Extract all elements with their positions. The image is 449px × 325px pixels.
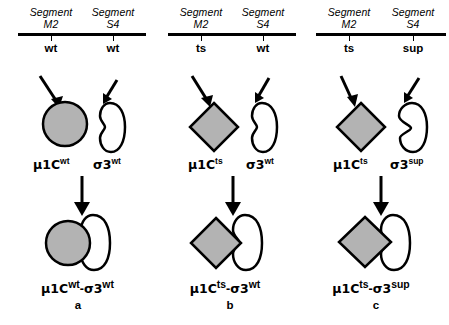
protein-label-sigma3: σ3wt (246, 158, 274, 172)
sigma3-bean-shape (252, 103, 277, 152)
protein-label-sigma3: σ3wt (93, 158, 121, 172)
protein-sup-mu1c: wt (60, 156, 69, 166)
panel-letter-a: a (58, 299, 98, 311)
segment-title-line1: Segment (312, 6, 386, 18)
gene-segment-bar (380, 33, 446, 36)
complex-base-left: μ1C (332, 281, 359, 296)
panel-b: Segment M2 ts Segment S4 wt (150, 0, 300, 325)
segment-title-line1: Segment (226, 6, 300, 18)
protein-label-sigma3: σ3sup (390, 158, 424, 172)
complex-label: μ1Cwt-σ3wt (0, 278, 155, 296)
figure-canvas: Segment M2 wt Segment S4 wt (0, 0, 449, 325)
free-proteins-row (293, 100, 449, 155)
segment-column-s4: Segment S4 wt (76, 6, 150, 54)
segment-allele-label: wt (76, 42, 150, 54)
complex-sup-left: ts (217, 279, 226, 290)
sigma3-bean-shape (100, 103, 125, 152)
complex-sup-right: wt (102, 279, 114, 290)
panel-letter-c: c (356, 299, 396, 311)
mu1c-diamond-shape (190, 103, 238, 151)
gene-segment-bar (230, 33, 296, 36)
complex-label: μ1Cts-σ3wt (150, 278, 300, 296)
sigma3-bean-angular-shape (399, 103, 427, 152)
protein-sup-sigma3: wt (264, 156, 273, 166)
mu1c-circle-shape (43, 102, 87, 146)
segment-title-line2: S4 (376, 18, 449, 30)
protein-label-mu1c: μ1Cts (188, 158, 223, 172)
segment-allele-label: wt (226, 42, 300, 54)
complex-base-left: μ1C (190, 281, 217, 296)
protein-label-mu1c: μ1Cts (333, 158, 368, 172)
gene-segment-bar (168, 33, 234, 36)
protein-sup-sigma3: wt (111, 156, 120, 166)
gene-segment-bar (316, 33, 382, 36)
complex-sup-right: wt (249, 279, 261, 290)
complex-sup-right: sup (391, 279, 410, 290)
free-proteins-row (150, 100, 300, 155)
segment-title-line2: S4 (226, 18, 300, 30)
segment-title-line1: Segment (76, 6, 150, 18)
complex-shapes (293, 212, 449, 274)
protein-base-mu1c: μ1C (33, 157, 60, 172)
segment-allele-label: ts (312, 42, 386, 54)
complex-base-left: μ1C (41, 281, 68, 296)
segment-column-s4: Segment S4 sup (376, 6, 449, 54)
panel-a: Segment M2 wt Segment S4 wt (0, 0, 155, 325)
segment-title-line2: S4 (76, 18, 150, 30)
protein-label-mu1c: μ1Cwt (33, 158, 70, 172)
protein-sup-sigma3: sup (408, 156, 423, 166)
segment-allele-label: sup (376, 42, 449, 54)
protein-sup-mu1c: ts (360, 156, 368, 166)
complex-label: μ1Cts-σ3sup (293, 278, 449, 296)
segment-column-m2: Segment M2 ts (312, 6, 386, 54)
protein-base-mu1c: μ1C (188, 157, 215, 172)
complex-base-right: σ3 (373, 281, 391, 296)
protein-base-mu1c: μ1C (333, 157, 360, 172)
mu1c-circle-shape (46, 221, 90, 265)
protein-sup-mu1c: ts (215, 156, 223, 166)
complex-shapes (150, 212, 300, 274)
segment-title-line2: M2 (312, 18, 386, 30)
complex-sup-left: ts (359, 279, 368, 290)
panel-letter-b: b (210, 299, 250, 311)
complex-base-right: σ3 (230, 281, 248, 296)
mu1c-diamond-shape (337, 103, 385, 151)
segment-title-line1: Segment (376, 6, 449, 18)
protein-base-sigma3: σ3 (246, 157, 264, 172)
complex-sup-left: wt (68, 279, 80, 290)
free-proteins-row (0, 100, 155, 155)
gene-segment-bar (18, 33, 84, 36)
gene-segment-bar (80, 33, 146, 36)
panel-c: Segment M2 ts Segment S4 sup (293, 0, 449, 325)
protein-base-sigma3: σ3 (93, 157, 111, 172)
protein-base-sigma3: σ3 (390, 157, 408, 172)
complex-base-right: σ3 (84, 281, 102, 296)
segment-column-s4: Segment S4 wt (226, 6, 300, 54)
complex-shapes (0, 212, 155, 274)
